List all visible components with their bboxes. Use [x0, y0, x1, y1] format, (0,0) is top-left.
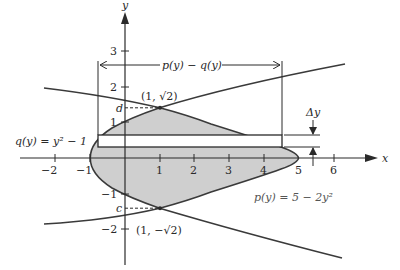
x-tick-label: −2 [41, 164, 57, 177]
top-intersection-point [158, 106, 162, 110]
d-label: d [116, 102, 123, 115]
x-tick-label: −1 [76, 164, 92, 177]
bottom-intersection-point [158, 206, 162, 210]
x-axis-arrow-icon [365, 154, 378, 162]
x-axis-label: x [382, 152, 389, 165]
q-curve-lower [44, 208, 160, 224]
x-tick-label: 3 [225, 164, 232, 177]
x-tick-label: 6 [330, 164, 337, 177]
y-tick-label: 2 [110, 81, 117, 94]
y-tick-label: −2 [101, 223, 117, 236]
y-tick-label: −1 [101, 188, 117, 201]
p-curve-lower [160, 208, 342, 258]
y-axis-arrow-icon [121, 12, 129, 24]
c-label: c [116, 202, 122, 215]
x-tick-label: 4 [260, 164, 267, 177]
y-tick-label: 1 [110, 116, 117, 129]
p-curve-label: p(y) = 5 − 2y² [254, 191, 333, 204]
y-axis-label: y [121, 0, 129, 12]
delta-y-label: Δy [305, 106, 321, 119]
y-tick-label: 3 [110, 45, 117, 58]
x-tick-label: 2 [190, 164, 197, 177]
x-tick-label: 1 [156, 164, 163, 177]
bottom-point-label: (1, −√2) [136, 224, 182, 237]
q-curve-label: q(y) = y² − 1 [15, 135, 87, 148]
region-between-curves-diagram: x y −2 −1 1 2 3 4 5 6 3 2 1 −1 −2 p(y) −… [0, 0, 400, 270]
x-tick-label: 5 [295, 164, 302, 177]
width-label: p(y) − q(y) [162, 59, 222, 72]
top-point-label: (1, √2) [141, 90, 178, 103]
